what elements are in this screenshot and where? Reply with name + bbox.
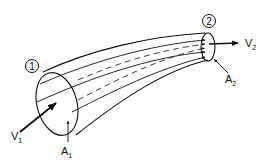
inlet-cross-section — [29, 68, 84, 140]
v2-arrow — [209, 43, 238, 44]
tube-bottom-boundary — [76, 60, 208, 135]
a2-pointer — [214, 59, 228, 73]
stream-tube-diagram: 1 2 V1 A1 V2 A2 — [0, 0, 270, 167]
a2-label: A2 — [225, 73, 236, 87]
a1-label: A1 — [61, 145, 72, 159]
streamline — [40, 40, 205, 84]
section-1-label: 1 — [29, 61, 35, 72]
dashed-streamline — [78, 48, 205, 100]
v2-label: V2 — [245, 37, 256, 51]
streamline — [72, 57, 205, 112]
tube-top-boundary — [43, 33, 205, 72]
section-2-label: 2 — [206, 16, 212, 27]
streamline — [37, 52, 205, 102]
outlet-cross-section — [201, 33, 215, 61]
v1-arrow — [20, 103, 56, 132]
